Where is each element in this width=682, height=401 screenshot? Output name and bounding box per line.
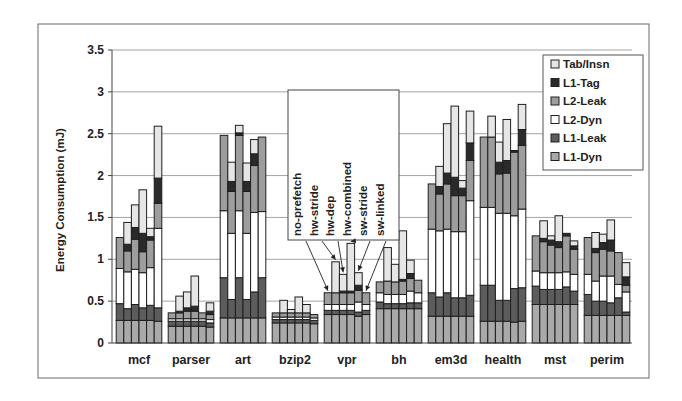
bar-segment-health-sw-stride-l1-tag: [511, 150, 519, 152]
bar-segment-parser-no-prefetch-l1-leak: [168, 321, 176, 326]
bar-segment-em3d-hw-combined-l1-tag: [451, 177, 459, 195]
bar-segment-health-sw-stride-l2-dyn: [511, 216, 519, 289]
bar-segment-bzip2-hw-combined-l1-leak: [295, 320, 303, 323]
bar-segment-em3d-sw-linked-l1-leak: [466, 295, 474, 316]
bar-segment-art-no-prefetch-l1-leak: [220, 278, 228, 318]
bar-segment-vpr-sw-stride-tab-insn: [355, 273, 363, 286]
bar-segment-bh-hw-dep-l1-dyn: [391, 309, 399, 343]
bar-segment-art-hw-dep-l2-dyn: [235, 211, 243, 278]
bar-group-bzip2: [272, 297, 318, 343]
bar-segment-perim-sw-stride-l2-leak: [615, 253, 623, 285]
bar-segment-mst-hw-combined-l2-dyn: [555, 273, 563, 290]
bar-segment-bzip2-no-prefetch-l2-leak: [272, 313, 280, 317]
bar-segment-art-sw-stride-l1-leak: [251, 292, 259, 318]
bar-segment-mst-sw-stride-l2-leak: [563, 236, 571, 272]
bar-segment-parser-hw-stride-tab-insn: [176, 296, 184, 311]
bar-segment-health-sw-linked-l2-leak: [518, 145, 526, 209]
bar-segment-art-hw-stride-tab-insn: [228, 162, 236, 181]
x-tick-label: art: [235, 353, 252, 367]
bar-group-art: [220, 125, 266, 343]
bar-segment-bzip2-hw-stride-l1-dyn: [280, 323, 288, 343]
bar-segment-vpr-hw-dep-tab-insn: [339, 274, 347, 291]
bar-segment-mcf-hw-stride-l1-dyn: [124, 320, 132, 343]
bar-segment-perim-sw-linked-l2-leak: [622, 285, 630, 292]
bar-segment-mcf-hw-combined-l1-dyn: [139, 320, 147, 343]
bar-segment-health-hw-dep-l1-tag: [495, 162, 503, 174]
x-tick-label: health: [485, 353, 522, 367]
bar-segment-perim-no-prefetch-l2-leak: [584, 238, 592, 275]
bar-segment-em3d-sw-stride-l1-tag: [459, 188, 467, 196]
legend: Tab/InsnL1-TagL2-LeakL2-DynL1-LeakL1-Dyn: [543, 55, 643, 170]
bar-segment-parser-hw-dep-l2-leak: [183, 311, 191, 319]
bar-segment-vpr-sw-stride-l2-leak: [355, 290, 363, 302]
bar-segment-mst-hw-combined-l1-dyn: [555, 304, 563, 343]
bar-segment-vpr-hw-combined-l2-leak: [347, 293, 355, 305]
bar-segment-health-hw-stride-l2-leak: [488, 137, 496, 207]
bar-segment-parser-sw-linked-tab-insn: [206, 303, 214, 311]
bar-segment-mcf-sw-linked-l1-dyn: [154, 321, 162, 343]
bar-segment-em3d-sw-linked-tab-insn: [466, 111, 474, 143]
bar-segment-vpr-hw-dep-l2-dyn: [339, 304, 347, 310]
bar-segment-mst-hw-stride-tab-insn: [540, 221, 548, 239]
bar-segment-health-sw-stride-l2-leak: [511, 152, 519, 216]
bar-segment-health-no-prefetch-l2-leak: [480, 137, 488, 207]
bar-segment-em3d-sw-linked-l2-leak: [466, 161, 474, 201]
bar-segment-mcf-sw-linked-l1-tag: [154, 178, 162, 203]
bar-segment-art-hw-dep-l2-leak: [235, 135, 243, 210]
configuration-annotation: no-prefetchhw-stridehw-dephw-combinedsw-…: [288, 90, 399, 291]
arrowhead: [340, 267, 345, 272]
bar-segment-vpr-hw-combined-l1-leak: [347, 310, 355, 314]
bar-segment-vpr-hw-stride-tab-insn: [332, 262, 340, 293]
bar-segment-art-no-prefetch-l2-dyn: [220, 211, 228, 278]
bar-segment-bh-sw-stride-l1-leak: [407, 303, 415, 309]
bar-segment-em3d-no-prefetch-l1-dyn: [428, 316, 436, 343]
bar-segment-vpr-hw-dep-l2-leak: [339, 293, 347, 305]
bar-segment-parser-sw-linked-l2-dyn: [206, 320, 214, 323]
bar-segment-bh-hw-combined-l2-dyn: [399, 294, 407, 303]
bar-segment-vpr-hw-combined-l2-dyn: [347, 304, 355, 310]
bar-segment-health-hw-combined-l2-dyn: [503, 213, 511, 300]
x-tick-label: mcf: [128, 353, 151, 367]
bar-segment-mcf-hw-stride-l1-tag: [124, 244, 132, 251]
bar-segment-em3d-sw-stride-l2-dyn: [459, 232, 467, 298]
bar-segment-mcf-hw-combined-l2-dyn: [139, 273, 147, 308]
bar-segment-mcf-hw-stride-l2-leak: [124, 251, 132, 272]
bar-segment-bh-hw-combined-l1-dyn: [399, 309, 407, 343]
bar-segment-em3d-no-prefetch-l1-leak: [428, 293, 436, 316]
bar-segment-em3d-hw-stride-l1-leak: [436, 297, 444, 316]
bar-segment-em3d-hw-dep-l1-tag: [443, 173, 451, 184]
bar-segment-mcf-hw-combined-tab-insn: [139, 190, 147, 234]
bar-segment-health-hw-stride-l2-dyn: [488, 207, 496, 285]
bar-segment-art-hw-combined-tab-insn: [243, 163, 251, 181]
bar-segment-health-hw-dep-tab-insn: [495, 142, 503, 162]
bar-segment-mst-hw-dep-l1-dyn: [547, 304, 555, 343]
legend-label: L2-Leak: [563, 95, 607, 107]
bar-segment-mst-hw-stride-l2-dyn: [540, 273, 548, 290]
bar-segment-mst-hw-combined-l2-leak: [555, 248, 563, 273]
bar-segment-parser-hw-combined-l1-tag: [191, 306, 199, 311]
bar-segment-bh-hw-stride-l2-dyn: [384, 294, 392, 303]
energy-chart: 00.511.522.533.5 mcfparserartbzip2vprbhe…: [0, 0, 682, 401]
bar-segment-bh-sw-stride-l1-tag: [407, 274, 415, 279]
bar-segment-mcf-hw-combined-l1-tag: [139, 233, 147, 251]
bar-segment-perim-hw-combined-l2-dyn: [607, 276, 615, 303]
bar-segment-art-hw-dep-l1-dyn: [235, 318, 243, 343]
y-tick-label: 2.5: [87, 127, 104, 141]
bar-segment-health-no-prefetch-l2-dyn: [480, 207, 488, 285]
bar-segment-em3d-no-prefetch-l2-dyn: [428, 229, 436, 293]
bar-segment-bh-hw-stride-l2-leak: [384, 281, 392, 294]
bar-segment-bh-hw-stride-l1-dyn: [384, 309, 392, 343]
bar-segment-mst-sw-linked-l2-leak: [570, 249, 578, 274]
legend-swatch: [551, 134, 559, 142]
bar-segment-art-sw-linked-l2-leak: [258, 137, 266, 212]
bar-segment-health-sw-stride-l1-dyn: [511, 322, 519, 343]
legend-swatch: [551, 97, 559, 105]
y-tick-label: 0.5: [87, 294, 104, 308]
y-tick-label: 1.5: [87, 210, 104, 224]
bar-segment-perim-sw-linked-l2-dyn: [622, 292, 630, 312]
bar-segment-em3d-sw-stride-l1-dyn: [459, 316, 467, 343]
bar-segment-parser-hw-dep-l1-leak: [183, 321, 191, 326]
bar-segment-mcf-no-prefetch-l2-leak: [116, 238, 124, 269]
bar-segment-mcf-sw-stride-l1-leak: [147, 305, 155, 320]
x-tick-label: vpr: [337, 353, 357, 367]
